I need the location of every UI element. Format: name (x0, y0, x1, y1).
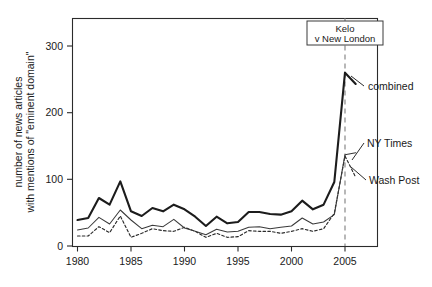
series-line-ny-times (78, 153, 356, 235)
chart-figure: 300 200 100 0 1980 1985 1990 1995 2000 2… (0, 0, 432, 287)
y-tick-label-0: 0 (57, 240, 63, 252)
x-tick-label-1995: 1995 (226, 255, 250, 267)
y-axis-ticks (67, 46, 73, 246)
series-label-combined: combined (368, 80, 414, 92)
y-tick-label-300: 300 (45, 40, 63, 52)
y-tick-label-100: 100 (45, 173, 63, 185)
leader-line-ny-times (352, 143, 364, 160)
y-axis-title-line2: with mentions of "eminent domain" (24, 51, 36, 213)
kelo-annotation-line2: v New London (315, 33, 376, 44)
x-tick-label-1985: 1985 (119, 255, 143, 267)
series-line-combined (78, 73, 356, 226)
x-tick-label-1990: 1990 (173, 255, 197, 267)
y-axis-title-line1: number of news articles (12, 77, 24, 188)
series-line-wash-post (78, 156, 356, 237)
x-tick-label-2000: 2000 (280, 255, 304, 267)
line-chart-canvas: 300 200 100 0 1980 1985 1990 1995 2000 2… (0, 0, 432, 287)
series-group (78, 73, 356, 238)
y-tick-label-200: 200 (45, 106, 63, 118)
series-label-ny-times: NY Times (367, 137, 412, 149)
series-label-wash-post: Wash Post (369, 174, 419, 186)
x-tick-label-1980: 1980 (66, 255, 90, 267)
kelo-annotation-line1: Kelo (335, 23, 354, 34)
x-tick-label-2005: 2005 (333, 255, 357, 267)
